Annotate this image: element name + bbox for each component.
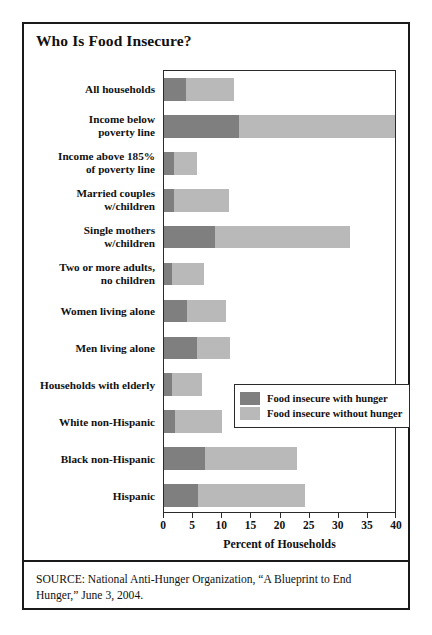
category-label: Hispanic (15, 489, 155, 502)
bar-segment-with-hunger (164, 410, 175, 433)
bar-row: Women living alone (164, 300, 395, 323)
chart-legend: Food insecure with hunger Food insecure … (234, 384, 410, 428)
category-label: Households with elderly (15, 379, 155, 392)
bar-row: Married couples w/children (164, 189, 395, 212)
bar-segment-without-hunger (205, 447, 297, 470)
bar-segment-with-hunger (164, 484, 198, 507)
bar-row: Black non-Hispanic (164, 447, 395, 470)
bars-layer: All householdsIncome below poverty lineI… (164, 71, 395, 512)
category-label: Black non-Hispanic (15, 452, 155, 465)
plot-region: All householdsIncome below poverty lineI… (163, 70, 396, 513)
bar-segment-with-hunger (164, 300, 187, 323)
bar-segment-without-hunger (186, 78, 234, 101)
x-axis-tick (250, 513, 251, 518)
bar-segment-without-hunger (197, 337, 230, 360)
legend-item-without-hunger: Food insecure without hunger (240, 407, 402, 420)
bar-segment-without-hunger (172, 373, 202, 396)
bar-segment-without-hunger (187, 300, 226, 323)
x-axis-tick-label: 35 (361, 519, 373, 531)
bar-segment-with-hunger (164, 447, 205, 470)
x-axis-tick (163, 513, 164, 518)
x-axis-tick-label: 5 (189, 519, 195, 531)
bar-row: All households (164, 78, 395, 101)
category-label: Income below poverty line (15, 114, 155, 139)
category-label: Two or more adults, no children (15, 261, 155, 286)
legend-swatch-without-hunger (240, 407, 260, 420)
x-axis-title: Percent of Households (163, 537, 396, 552)
bar-segment-with-hunger (164, 189, 174, 212)
bar-row: Men living alone (164, 337, 395, 360)
x-axis-tick-label: 20 (274, 519, 286, 531)
bar-segment-with-hunger (164, 337, 197, 360)
legend-item-with-hunger: Food insecure with hunger (240, 392, 402, 405)
x-axis-tick-label: 25 (303, 519, 315, 531)
category-label: Single mothers w/children (15, 225, 155, 250)
legend-swatch-with-hunger (240, 392, 260, 405)
bar-row: Hispanic (164, 484, 395, 507)
bar-segment-with-hunger (164, 78, 186, 101)
chart-title: Who Is Food Insecure? (36, 32, 192, 50)
bar-segment-without-hunger (175, 410, 222, 433)
x-axis: 0510152025303540 (163, 513, 396, 514)
bar-segment-with-hunger (164, 263, 172, 286)
bar-segment-without-hunger (215, 226, 350, 249)
category-label: Married couples w/children (15, 188, 155, 213)
figure-panel: Who Is Food Insecure? All householdsInco… (22, 22, 410, 610)
x-axis-tick-label: 0 (160, 519, 166, 531)
x-axis-tick-label: 30 (332, 519, 344, 531)
x-axis-tick (280, 513, 281, 518)
bar-segment-with-hunger (164, 373, 172, 396)
legend-label-without-hunger: Food insecure without hunger (267, 408, 402, 419)
category-label: Men living alone (15, 342, 155, 355)
bar-segment-with-hunger (164, 152, 174, 175)
source-divider (24, 560, 408, 562)
x-axis-tick (338, 513, 339, 518)
bar-row: Income below poverty line (164, 115, 395, 138)
bar-segment-without-hunger (174, 189, 229, 212)
source-note: SOURCE: National Anti-Hunger Organizatio… (36, 572, 396, 603)
category-label: Women living alone (15, 305, 155, 318)
category-label: All households (15, 83, 155, 96)
bar-segment-with-hunger (164, 226, 215, 249)
bar-segment-without-hunger (172, 263, 203, 286)
category-label: Income above 185% of poverty line (15, 151, 155, 176)
x-axis-tick-label: 15 (245, 519, 257, 531)
x-axis-tick (395, 513, 396, 518)
bar-segment-without-hunger (239, 115, 395, 138)
x-axis-tick (221, 513, 222, 518)
x-axis-tick-label: 10 (216, 519, 228, 531)
x-axis-tick (192, 513, 193, 518)
bar-row: Single mothers w/children (164, 226, 395, 249)
x-axis-tick (309, 513, 310, 518)
bar-segment-without-hunger (174, 152, 197, 175)
bar-row: Two or more adults, no children (164, 263, 395, 286)
x-axis-tick (367, 513, 368, 518)
legend-label-with-hunger: Food insecure with hunger (267, 393, 388, 404)
x-axis-tick-label: 40 (390, 519, 402, 531)
bar-segment-without-hunger (198, 484, 305, 507)
category-label: White non-Hispanic (15, 415, 155, 428)
bar-row: Income above 185% of poverty line (164, 152, 395, 175)
bar-segment-with-hunger (164, 115, 239, 138)
